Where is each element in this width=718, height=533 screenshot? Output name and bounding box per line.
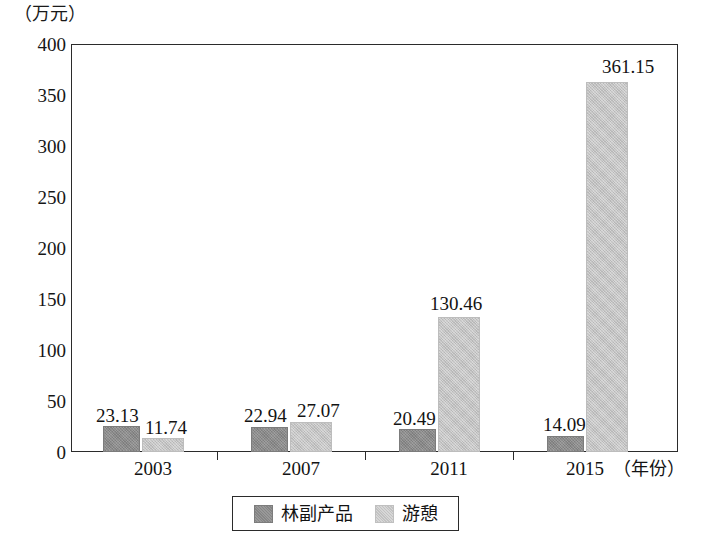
value-label-2011-forest-products: 20.49 (393, 409, 436, 428)
value-label-2011-recreation: 130.46 (430, 294, 482, 313)
value-label-2015-recreation: 361.15 (602, 57, 654, 76)
bar-2015-forest-products (547, 436, 584, 452)
y-axis-tick-labels: 400 350 300 250 200 150 100 50 0 (0, 0, 66, 533)
x-tick-mark-1 (217, 452, 218, 460)
bar-2015-recreation (586, 82, 628, 452)
legend-swatch-dark-gray-icon (254, 505, 273, 523)
bars-layer (71, 44, 678, 452)
x-tick-mark-2 (365, 452, 366, 460)
legend-swatch-light-gray-icon (375, 505, 394, 523)
x-tick-mark-3 (513, 452, 514, 460)
y-tick-label-350: 350 (2, 86, 66, 105)
legend-item-recreation: 游憩 (375, 504, 438, 524)
value-label-2003-recreation: 11.74 (145, 418, 187, 437)
y-tick-label-0: 0 (2, 443, 66, 462)
y-tick-label-250: 250 (2, 188, 66, 207)
x-axis-unit-label: （年份） (613, 458, 685, 480)
y-tick-label-100: 100 (2, 341, 66, 360)
x-tick-label-2011: 2011 (409, 458, 489, 480)
y-tick-label-150: 150 (2, 290, 66, 309)
value-label-2007-recreation: 27.07 (297, 401, 340, 420)
value-label-2007-forest-products: 22.94 (244, 406, 287, 425)
bar-2007-forest-products (251, 427, 288, 452)
bar-2003-recreation (142, 438, 184, 452)
legend-label-recreation: 游憩 (402, 504, 438, 524)
bar-2003-forest-products (103, 426, 140, 452)
y-tick-label-200: 200 (2, 239, 66, 258)
chart-legend: 林副产品 游憩 (232, 496, 459, 531)
bar-2011-recreation (438, 317, 480, 452)
value-label-2003-forest-products: 23.13 (96, 406, 139, 425)
legend-label-forest-products: 林副产品 (281, 504, 353, 524)
y-tick-label-300: 300 (2, 137, 66, 156)
value-label-2015-forest-products: 14.09 (543, 415, 586, 434)
bar-2007-recreation (290, 422, 332, 452)
bar-2011-forest-products (399, 429, 436, 452)
legend-item-forest-products: 林副产品 (254, 504, 353, 524)
y-tick-label-50: 50 (2, 392, 66, 411)
y-tick-label-400: 400 (2, 35, 66, 54)
x-tick-label-2007: 2007 (261, 458, 341, 480)
bar-chart: （万元） 400 350 300 250 200 150 100 50 0 23… (0, 0, 718, 533)
x-tick-label-2003: 2003 (113, 458, 193, 480)
